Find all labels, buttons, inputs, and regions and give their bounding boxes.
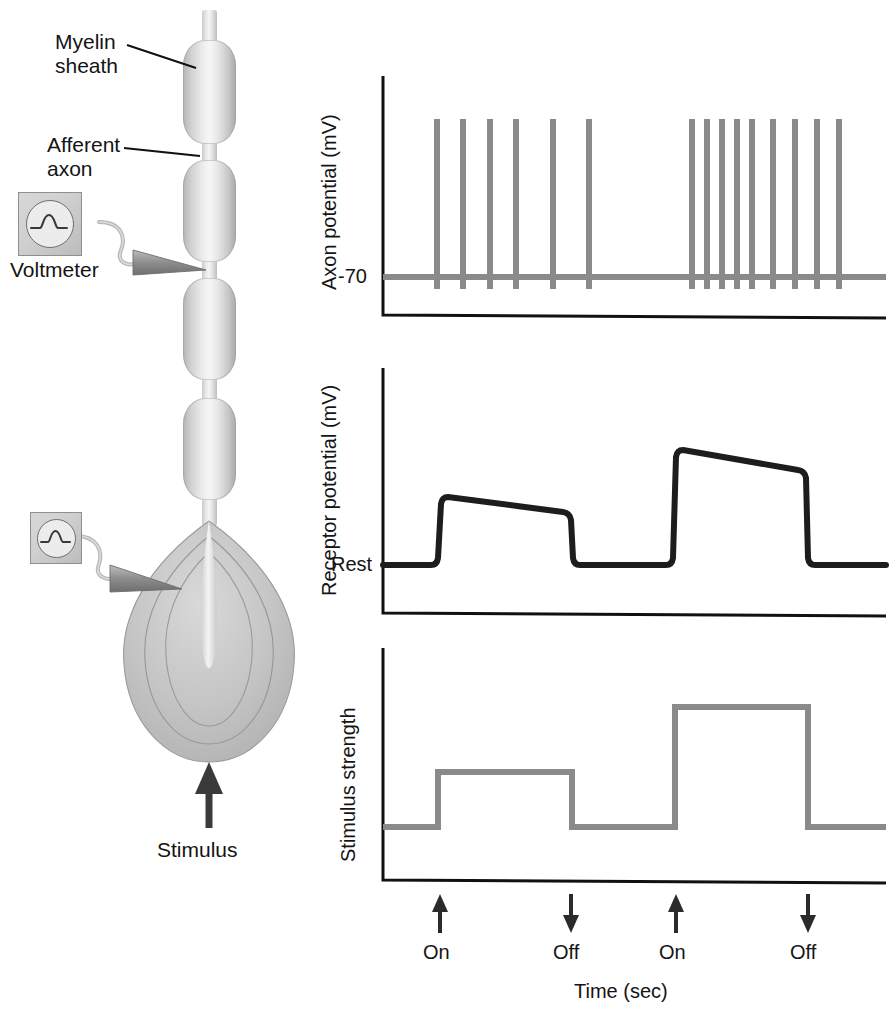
axis-title-time: Time (sec) xyxy=(574,980,668,1002)
event-label-off-2: Off xyxy=(790,941,816,963)
figure-root: Myelin sheath Afferent axon Voltmeter St… xyxy=(0,0,896,1014)
event-label-on-2: On xyxy=(659,941,686,963)
event-label-off-1: Off xyxy=(553,941,579,963)
ytick-receptor-rest: Rest xyxy=(331,553,372,575)
axis-title-stimulus-strength: Stimulus strength xyxy=(337,707,360,862)
axis-title-axon-potential: Axon potential (mV) xyxy=(318,114,341,290)
chart-text-layer: Axon potential (mV) Receptor potential (… xyxy=(0,0,896,1014)
ytick-axon-minus70: -70 xyxy=(338,265,367,287)
event-label-on-1: On xyxy=(423,941,450,963)
